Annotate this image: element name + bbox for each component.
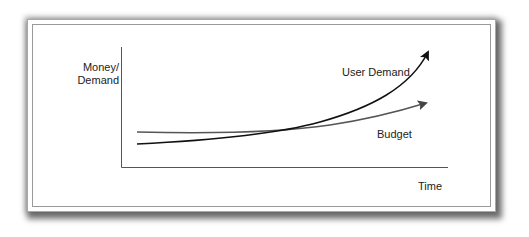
y-axis-label-line1: Money/ — [73, 61, 119, 74]
y-axis-label: Money/ Demand — [73, 61, 119, 87]
x-axis-label: Time — [418, 180, 442, 193]
chart-canvas — [0, 0, 529, 237]
y-axis-label-line2: Demand — [73, 74, 119, 87]
user-demand-label: User Demand — [342, 66, 410, 79]
budget-label: Budget — [377, 128, 412, 141]
